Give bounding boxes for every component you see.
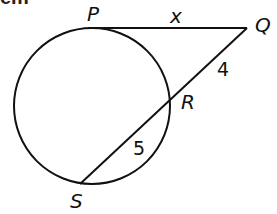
secant-segment-qs [80, 28, 247, 184]
point-label-s: S [70, 191, 83, 211]
diagram-stage: em P Q R S x 4 5 [0, 0, 277, 214]
segment-label-4: 4 [217, 60, 229, 79]
segment-label-5: 5 [133, 139, 145, 158]
point-label-p: P [87, 4, 99, 24]
segment-label-x: x [170, 6, 182, 26]
circle [14, 28, 170, 184]
point-label-r: R [181, 92, 195, 112]
point-label-q: Q [255, 15, 271, 35]
geometry-figure [0, 0, 277, 214]
